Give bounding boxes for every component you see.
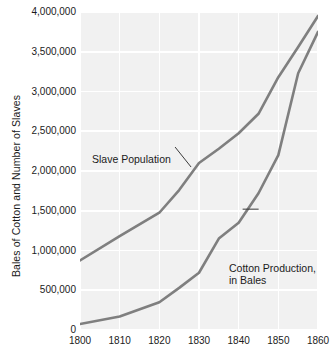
- cotton-slavery-line-chart: Bales of Cotton and Number of Slaves 050…: [0, 0, 335, 356]
- x-tick-label: 1820: [137, 335, 181, 346]
- annotation-cotton-production-line1: Cotton Production,: [229, 262, 316, 274]
- x-tick-label: 1800: [58, 335, 102, 346]
- annotation-slave-population: Slave Population: [92, 153, 171, 165]
- annotation-cotton-production-line2: in Bales: [229, 274, 316, 286]
- x-tick-label: 1840: [217, 335, 261, 346]
- annotation-cotton-production: Cotton Production, in Bales: [229, 262, 316, 286]
- x-tick-label: 1810: [98, 335, 142, 346]
- x-tick-label: 1850: [256, 335, 300, 346]
- x-tick-label: 1830: [177, 335, 221, 346]
- x-axis-tick-labels: 1800181018201830184018501860: [0, 0, 335, 356]
- x-tick-label: 1860: [296, 335, 335, 346]
